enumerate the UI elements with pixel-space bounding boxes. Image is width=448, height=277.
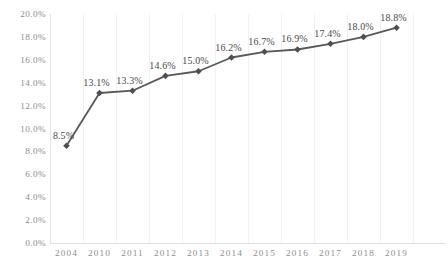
data-point-marker	[393, 24, 400, 31]
data-point-label: 13.3%	[116, 75, 142, 86]
data-point-marker	[261, 48, 268, 55]
x-axis-tick-label: 2015	[253, 248, 276, 258]
x-axis-tick-label: 2010	[88, 248, 111, 258]
x-axis-tick-label: 2011	[121, 248, 143, 258]
data-point-label: 14.6%	[149, 60, 175, 71]
data-point-marker	[228, 54, 235, 61]
data-point-marker	[162, 73, 169, 80]
x-axis-labels: 2004201020112012201320142015201620172018…	[50, 248, 446, 268]
x-axis-tick-label: 2013	[187, 248, 210, 258]
x-axis-tick-label: 2019	[385, 248, 408, 258]
x-axis-tick-label: 2014	[220, 248, 243, 258]
data-point-label: 15.0%	[182, 55, 208, 66]
x-axis-tick-label: 2004	[55, 248, 78, 258]
data-point-label: 16.7%	[248, 36, 274, 47]
data-point-label: 16.2%	[215, 42, 241, 53]
x-axis-tick-label: 2018	[352, 248, 375, 258]
data-point-label: 17.4%	[314, 28, 340, 39]
x-axis-tick-label: 2017	[319, 248, 342, 258]
x-axis-tick-label: 2012	[154, 248, 177, 258]
data-point-label: 18.0%	[347, 21, 373, 32]
line-chart: 0.0%2.0%4.0%6.0%8.0%10.0%12.0%14.0%16.0%…	[0, 0, 448, 277]
data-point-marker	[327, 40, 334, 47]
data-point-marker	[129, 87, 136, 94]
data-point-label: 16.9%	[281, 33, 307, 44]
data-point-marker	[195, 68, 202, 75]
data-point-marker	[360, 34, 367, 41]
data-point-label: 8.5%	[53, 130, 74, 141]
data-point-label: 13.1%	[83, 77, 109, 88]
data-point-label: 18.8%	[380, 12, 406, 23]
data-point-marker	[294, 46, 301, 53]
x-axis-tick-label: 2016	[286, 248, 309, 258]
